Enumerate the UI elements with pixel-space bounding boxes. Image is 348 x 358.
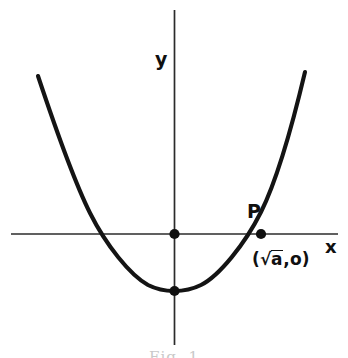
square-root-icon: √a (260, 250, 283, 268)
coord-close-paren: ) (302, 249, 310, 269)
point-p-label: P (247, 202, 261, 221)
parabola-plot (0, 0, 348, 358)
figure-container: y x P (√a,o) Fig. 1 (0, 0, 348, 358)
x-axis-label: x (325, 238, 337, 256)
coord-comma: , (283, 249, 290, 269)
y-axis-label: y (155, 50, 167, 69)
figure-caption: Fig. 1 (0, 348, 348, 358)
radical-argument: a (271, 250, 284, 268)
coord-y-value: o (290, 249, 302, 269)
point-p-marker (256, 229, 266, 239)
origin-point-marker (169, 229, 179, 239)
point-p-coordinate-label: (√a,o) (252, 250, 310, 268)
coord-open-paren: ( (252, 249, 260, 269)
vertex-point-marker (169, 286, 179, 296)
